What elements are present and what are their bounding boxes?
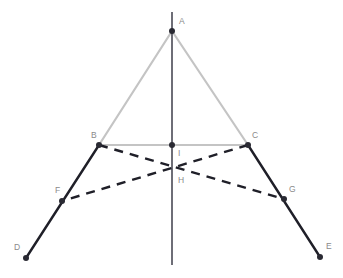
point-label-e: E — [326, 241, 332, 251]
dashed-edges-group — [62, 145, 284, 201]
point-label-c: C — [252, 130, 258, 140]
segment-ac — [172, 31, 248, 145]
segment-cf — [62, 145, 248, 201]
light-edges-group — [99, 31, 248, 145]
point-marker-c[interactable] — [245, 142, 251, 148]
point-labels-group: ABCDEFGHI — [14, 16, 332, 252]
geometry-canvas: ABCDEFGHI — [0, 0, 343, 278]
point-marker-e[interactable] — [317, 254, 323, 260]
point-label-g: G — [289, 184, 296, 194]
point-label-b: B — [91, 130, 97, 140]
geometry-figure: ABCDEFGHI — [0, 0, 343, 278]
point-marker-b[interactable] — [96, 142, 102, 148]
point-marker-a[interactable] — [169, 28, 175, 34]
point-marker-i[interactable] — [169, 142, 175, 148]
segment-ab — [99, 31, 172, 145]
point-label-a: A — [179, 16, 185, 26]
point-label-i: I — [178, 148, 180, 158]
segment-bg — [99, 145, 284, 199]
dark-edges-group — [26, 145, 320, 258]
point-label-d: D — [14, 242, 20, 252]
point-marker-g[interactable] — [281, 196, 287, 202]
point-marker-d[interactable] — [23, 255, 29, 261]
point-marker-f[interactable] — [59, 198, 65, 204]
point-markers-group — [23, 28, 323, 261]
point-label-f: F — [55, 185, 60, 195]
point-label-h: H — [178, 175, 184, 185]
